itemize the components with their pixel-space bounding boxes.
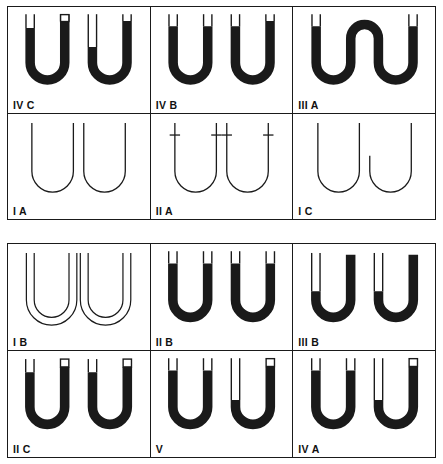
cell-iib[interactable]: II B [150,244,293,350]
u-tube-diagram-ia [8,116,150,203]
cell-ia[interactable]: I A [8,114,150,220]
cell-label: I B [13,336,27,348]
u-tube-svg [155,246,288,333]
cell-v[interactable]: V [150,351,293,457]
u-tube-diagram-iva [293,353,435,440]
panel-row: IV C [8,7,435,113]
u-tube-svg [12,9,145,96]
u-tube-diagram-ivc [8,9,150,96]
u-tube-diagram-v [151,353,293,440]
cell-iva[interactable]: IV A [292,351,435,457]
u-tube-diagram-ib [8,246,150,333]
u-tube-svg [298,246,431,333]
cell-label: I C [298,205,312,217]
u-tube-diagram-ivb [151,9,293,96]
u-tube-svg [12,353,145,440]
cell-label: III B [298,336,319,348]
cell-iiia[interactable]: III A [292,7,435,113]
cell-ivc[interactable]: IV C [8,7,150,113]
cell-ib[interactable]: I B [8,244,150,350]
cell-iic[interactable]: II C [8,351,150,457]
u-tube-svg [298,116,431,203]
cell-label: I A [13,205,27,217]
cell-label: IV B [156,99,178,111]
u-tube-svg [298,9,431,96]
u-tube-svg [298,353,431,440]
cell-label: IV A [298,443,319,455]
u-tube-svg [12,116,145,203]
cell-ivb[interactable]: IV B [150,7,293,113]
lower-panel: I B [7,243,436,458]
u-tube-diagram-iic [8,353,150,440]
cell-label: IV C [13,99,35,111]
u-tube-diagram-iib [151,246,293,333]
u-tube-svg [12,246,145,333]
u-tube-diagram-iia [151,116,293,203]
panel-row: I A II A [8,113,435,220]
cell-label: II C [13,443,31,455]
cell-label: II B [156,336,174,348]
u-tube-diagram-iiib [293,246,435,333]
cell-iiib[interactable]: III B [292,244,435,350]
cell-label: II A [156,205,173,217]
cell-label: III A [298,99,318,111]
panel-row: II C [8,350,435,457]
u-tube-diagram-ic [293,116,435,203]
panel-row: I B [8,244,435,350]
u-tube-svg [155,116,288,203]
upper-panel: IV C [7,6,436,220]
cell-label: V [156,443,163,455]
figure-sheet: IV C [0,0,443,464]
u-tube-svg [155,9,288,96]
cell-ic[interactable]: I C [292,114,435,220]
u-tube-diagram-iiia [293,9,435,96]
cell-iia[interactable]: II A [150,114,293,220]
u-tube-svg [155,353,288,440]
